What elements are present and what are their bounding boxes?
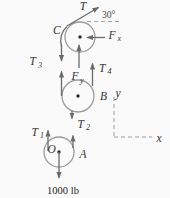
pulley-diagram: T 30° C F x F y T 3 T 4 B y T 2 T 1 O A …	[0, 0, 170, 198]
diagram-stage: T 30° C F x F y T 3 T 4 B y T 2 T 1 O A …	[0, 0, 170, 198]
label-Fx-base: F	[108, 29, 117, 41]
label-pulley-O: O	[48, 143, 57, 155]
label-T3-sub: 3	[37, 61, 42, 70]
label-T4-base: T	[99, 62, 107, 74]
label-x-axis: x	[156, 132, 163, 144]
label-T2-sub: 2	[86, 123, 90, 132]
label-point-A: A	[79, 148, 88, 160]
label-T3-base: T	[30, 55, 38, 67]
label-Fx-sub: x	[117, 34, 122, 43]
label-pulley-C: C	[53, 24, 61, 36]
label-angle: 30°	[102, 10, 116, 20]
axle-C-dot	[78, 35, 81, 38]
label-T2-base: T	[78, 118, 86, 130]
label-T4-sub: 4	[108, 67, 112, 76]
label-T1-sub: 1	[40, 131, 44, 140]
axle-B-dot	[76, 94, 79, 97]
label-load: 1000 lb	[47, 185, 79, 196]
label-T: T	[80, 0, 88, 12]
label-pulley-B: B	[100, 90, 107, 102]
label-Fy-base: F	[71, 70, 80, 82]
label-Fy-sub: y	[79, 76, 84, 85]
label-y-axis: y	[115, 87, 122, 100]
label-T1-base: T	[32, 126, 40, 138]
